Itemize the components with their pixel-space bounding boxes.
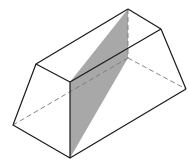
shaded-cross-section <box>70 9 128 158</box>
trapezoidal-prism-diagram <box>0 0 189 167</box>
